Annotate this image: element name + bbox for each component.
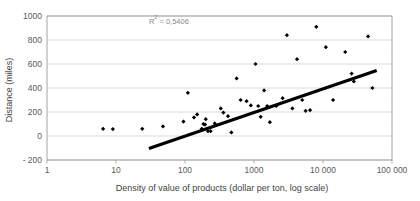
- y-tick-label: 600: [28, 59, 42, 69]
- x-tick-label: 10 000: [310, 165, 336, 175]
- chart-background: [0, 0, 420, 201]
- y-tick-label: 200: [28, 107, 42, 117]
- x-tick-label: 100: [178, 165, 192, 175]
- y-tick-label: 800: [28, 35, 42, 45]
- chart-canvas: 10008006004002000- 200 110100100010 0001…: [0, 0, 420, 201]
- x-tick-label: 100 000: [377, 165, 408, 175]
- x-tick-label: 10: [111, 165, 121, 175]
- x-tick-label: 1000: [245, 165, 264, 175]
- scatter-chart: 10008006004002000- 200 110100100010 0001…: [0, 0, 420, 201]
- x-axis-title: Density of value of products (dollar per…: [116, 183, 329, 193]
- y-tick-label: 400: [28, 83, 42, 93]
- y-tick-label: 1000: [23, 11, 42, 21]
- y-tick-label: 0: [37, 131, 42, 141]
- y-axis-title: Distance (miles): [4, 58, 14, 123]
- y-tick-label: - 200: [23, 155, 43, 165]
- x-tick-label: 1: [45, 165, 50, 175]
